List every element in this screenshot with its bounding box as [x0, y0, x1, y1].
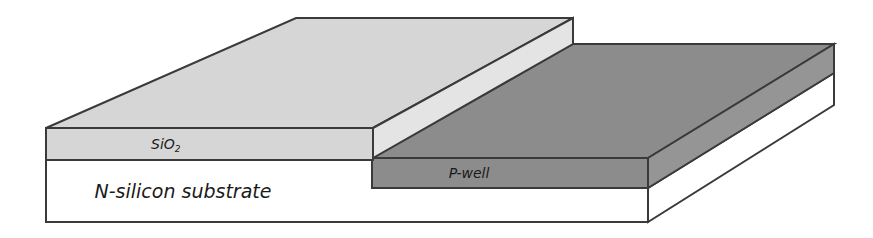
- substrate-label: N-silicon substrate: [95, 180, 272, 202]
- process-diagram: SiO2 P-well N-silicon substrate: [0, 0, 873, 238]
- pwell-label: P-well: [449, 165, 490, 181]
